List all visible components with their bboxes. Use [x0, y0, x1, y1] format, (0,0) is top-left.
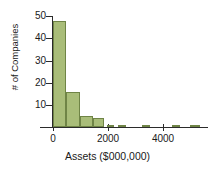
y-axis-tick-label-10: 10 — [0, 100, 46, 110]
histogram-bar — [66, 92, 79, 127]
histogram-bar — [118, 125, 126, 127]
y-axis-tick-30 — [46, 61, 52, 62]
y-axis-tick-label-50: 50 — [0, 11, 46, 21]
histogram-bar — [80, 116, 93, 127]
y-axis-tick-label-20: 20 — [0, 78, 46, 88]
histogram-bar — [93, 118, 104, 127]
histogram-figure: # of Companies 50 40 30 20 10 0 2000 400… — [0, 0, 215, 181]
plot-area — [53, 12, 208, 127]
histogram-bar — [172, 125, 180, 127]
y-axis-tick-label-30: 30 — [0, 56, 46, 66]
x-axis-tick-label-4000: 4000 — [143, 133, 183, 144]
x-axis-line — [40, 127, 208, 128]
x-axis-tick-label-0: 0 — [33, 133, 73, 144]
y-axis-tick-20 — [46, 83, 52, 84]
histogram-bars — [53, 12, 208, 127]
y-axis-tick-10 — [46, 105, 52, 106]
y-axis-tick-40 — [46, 38, 52, 39]
y-axis-tick-label-40: 40 — [0, 33, 46, 43]
x-axis-tick-label-2000: 2000 — [88, 133, 128, 144]
y-axis-tick-50 — [46, 16, 52, 17]
histogram-bar — [142, 125, 150, 127]
histogram-bar — [190, 125, 199, 127]
histogram-bar — [53, 21, 66, 127]
histogram-bar — [107, 125, 114, 127]
x-axis-title: Assets ($000,000) — [0, 150, 215, 162]
